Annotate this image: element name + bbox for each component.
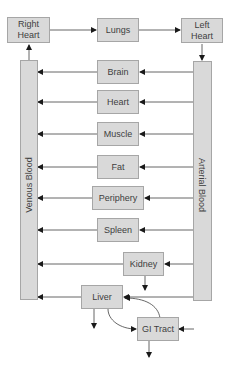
- kidney-box: Kidney: [123, 252, 164, 276]
- right-heart-box: Right Heart: [7, 17, 50, 43]
- venous-blood-label: Venous Blood: [24, 157, 34, 213]
- arterial-blood-label: Arterial Blood: [197, 158, 207, 212]
- periphery-box: Periphery: [92, 186, 144, 210]
- brain-box: Brain: [97, 60, 139, 84]
- lungs-box: Lungs: [97, 18, 139, 42]
- fat-box: Fat: [97, 155, 139, 179]
- left-heart-box: Left Heart: [181, 18, 223, 43]
- liver-box: Liver: [81, 285, 123, 309]
- spleen-box: Spleen: [97, 218, 139, 242]
- heart-box: Heart: [97, 90, 139, 114]
- gi-tract-box: GI Tract: [137, 317, 179, 341]
- muscle-box: Muscle: [97, 122, 139, 146]
